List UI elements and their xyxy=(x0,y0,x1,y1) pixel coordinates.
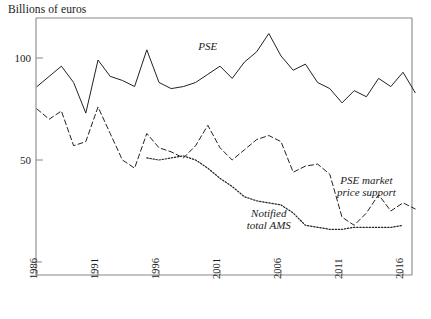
x-axis-tick-label: 2016 xyxy=(394,258,405,279)
x-axis-tick-label: 2001 xyxy=(211,258,222,279)
chart-plot-area: 501001986199119962001200620112016PSEPSE … xyxy=(0,0,431,319)
chart-figure: Billions of euros 5010019861991199620012… xyxy=(0,0,431,319)
series-label-pse-market-price-support: PSE marketprice support xyxy=(336,174,397,198)
y-axis-tick-label: 50 xyxy=(20,154,32,166)
series-line-pse xyxy=(37,34,415,114)
x-axis-tick-label: 1996 xyxy=(150,258,161,279)
x-axis-tick-label: 2006 xyxy=(272,258,283,279)
series-label-pse: PSE xyxy=(197,40,217,52)
series-label-notified-total-ams: Notifiedtotal AMS xyxy=(247,207,292,231)
x-axis-tick-label: 2011 xyxy=(333,258,344,279)
series-line-pse-market-price-support xyxy=(37,107,415,225)
x-axis-tick-label: 1986 xyxy=(28,258,39,279)
y-axis-tick-label: 100 xyxy=(15,52,32,64)
x-axis-tick-label: 1991 xyxy=(89,258,100,279)
